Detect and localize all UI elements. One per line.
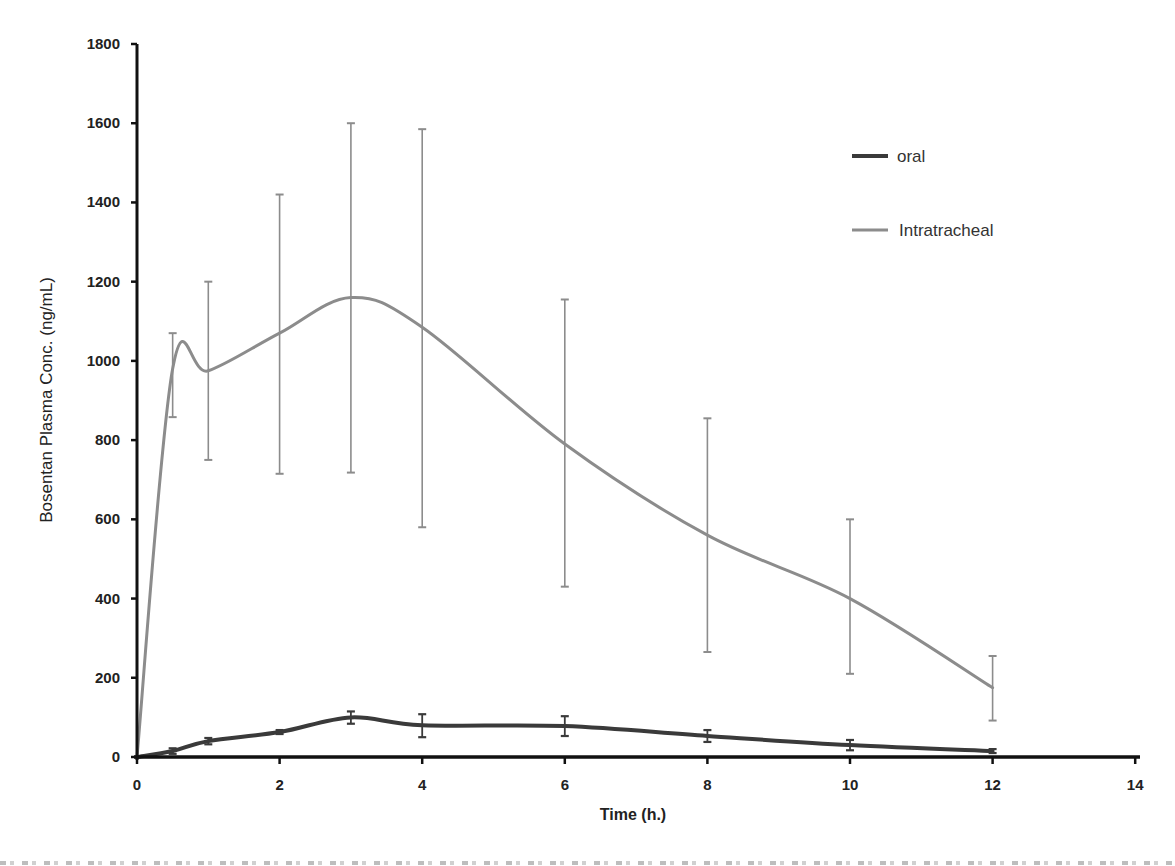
y-tick-label: 0 — [112, 748, 120, 765]
y-tick-label: 600 — [95, 510, 120, 527]
x-tick-label: 8 — [703, 776, 711, 793]
pk-line-chart: 020040060080010001200140016001800 024681… — [0, 0, 1175, 866]
y-tick-label: 1000 — [87, 352, 120, 369]
x-axis-title: Time (h.) — [600, 806, 666, 823]
y-tick-label: 1200 — [87, 273, 120, 290]
legend-label-oral: oral — [897, 147, 925, 166]
x-tick-label: 4 — [418, 776, 427, 793]
y-tick-label: 1600 — [87, 114, 120, 131]
legend-item-intratracheal: Intratracheal — [852, 221, 994, 240]
series-intratracheal — [137, 123, 997, 757]
x-axis-ticks: 02468101214 — [133, 757, 1144, 793]
y-tick-label: 400 — [95, 590, 120, 607]
x-tick-label: 0 — [133, 776, 141, 793]
y-tick-label: 1400 — [87, 193, 120, 210]
legend: oral Intratracheal — [852, 147, 994, 240]
x-tick-label: 10 — [842, 776, 859, 793]
caption-cutoff — [0, 856, 1175, 866]
x-tick-label: 12 — [984, 776, 1001, 793]
y-tick-label: 1800 — [87, 35, 120, 52]
y-tick-label: 200 — [95, 669, 120, 686]
series-layer — [137, 123, 997, 757]
y-tick-label: 800 — [95, 431, 120, 448]
x-tick-label: 6 — [561, 776, 569, 793]
series-oral — [137, 711, 997, 757]
legend-label-intratracheal: Intratracheal — [899, 221, 994, 240]
legend-item-oral: oral — [852, 147, 925, 166]
y-axis-title: Bosentan Plasma Conc. (ng/mL) — [37, 277, 56, 523]
x-tick-label: 2 — [275, 776, 283, 793]
y-axis-ticks: 020040060080010001200140016001800 — [87, 35, 137, 765]
x-tick-label: 14 — [1127, 776, 1144, 793]
